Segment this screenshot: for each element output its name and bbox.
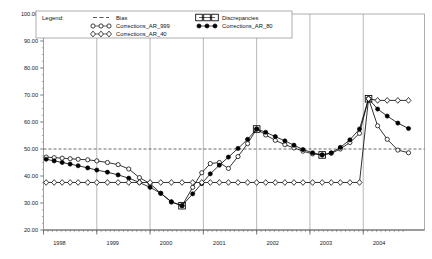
data-point-corrections_ar_40 — [245, 180, 250, 186]
data-point-corrections_ar_80 — [169, 200, 173, 204]
x-axis-tick-label: 1998 — [53, 240, 65, 246]
data-point-corrections_ar_40 — [105, 180, 110, 186]
y-axis-tick-label: 50.00 — [24, 146, 38, 152]
data-point-corrections_ar_40 — [116, 180, 121, 186]
data-point-corrections_ar_80 — [273, 134, 277, 138]
legend-label: Bias — [116, 15, 127, 21]
data-point-corrections_ar_80 — [236, 146, 240, 150]
data-point-corrections_ar_999 — [86, 158, 90, 162]
data-point-corrections_ar_999 — [127, 167, 131, 171]
data-point-corrections_ar_80 — [95, 168, 99, 172]
data-point-corrections_ar_80 — [180, 204, 184, 208]
data-point-corrections_ar_40 — [137, 180, 142, 186]
data-point-corrections_ar_999 — [200, 171, 204, 175]
data-point-corrections_ar_80 — [357, 127, 361, 131]
y-axis-tick-label: 30.00 — [24, 200, 38, 206]
data-point-corrections_ar_40 — [180, 180, 185, 186]
data-point-corrections_ar_999 — [76, 157, 80, 161]
data-point-corrections_ar_999 — [105, 160, 109, 164]
plot-frame — [44, 14, 425, 230]
data-point-corrections_ar_80 — [283, 139, 287, 143]
data-point-corrections_ar_80 — [320, 153, 324, 157]
data-point-corrections_ar_40 — [395, 98, 400, 104]
data-point-corrections_ar_40 — [85, 180, 90, 186]
data-point-corrections_ar_40 — [282, 180, 287, 186]
data-point-corrections_ar_80 — [406, 126, 410, 130]
data-point-corrections_ar_999 — [236, 154, 240, 158]
data-point-corrections_ar_40 — [320, 180, 325, 186]
x-axis-tick-label: 2002 — [266, 240, 278, 246]
legend-marker-filled-circle — [213, 24, 217, 28]
data-point-corrections_ar_80 — [86, 166, 90, 170]
data-point-corrections_ar_999 — [68, 157, 72, 161]
data-point-corrections_ar_80 — [191, 192, 195, 196]
legend-title: Legend: — [42, 15, 64, 21]
data-point-corrections_ar_999 — [396, 148, 400, 152]
y-axis-tick-label: 20.00 — [24, 227, 38, 233]
data-point-corrections_ar_40 — [300, 180, 305, 186]
x-axis-tick-label: 2000 — [160, 240, 172, 246]
data-point-corrections_ar_999 — [95, 159, 99, 163]
x-axis-tick-label: 2001 — [213, 240, 225, 246]
data-point-corrections_ar_40 — [226, 180, 231, 186]
y-axis-tick-label: 70.00 — [24, 92, 38, 98]
legend-marker-open-circle — [99, 24, 103, 28]
legend-marker-open-circle — [107, 24, 111, 28]
legend-label: Corrections_AR_40 — [116, 31, 167, 37]
data-point-corrections_ar_40 — [126, 180, 131, 186]
data-point-corrections_ar_80 — [208, 172, 212, 176]
data-point-corrections_ar_999 — [226, 166, 230, 170]
data-point-corrections_ar_40 — [357, 180, 362, 186]
data-point-corrections_ar_40 — [329, 180, 334, 186]
y-axis-tick-label: 90.00 — [24, 38, 38, 44]
chart-container: 100.0090.0080.0070.0060.0050.0040.0030.0… — [0, 0, 432, 259]
x-axis-tick-label: 2003 — [320, 240, 332, 246]
series-line-corrections_ar_80 — [46, 99, 408, 206]
data-point-corrections_ar_80 — [226, 155, 230, 159]
data-point-corrections_ar_80 — [310, 151, 314, 155]
data-point-corrections_ar_80 — [44, 157, 48, 161]
data-point-corrections_ar_999 — [208, 161, 212, 165]
y-axis-tick-label: 80.00 — [24, 65, 38, 71]
data-point-corrections_ar_40 — [76, 180, 81, 186]
data-point-corrections_ar_999 — [116, 163, 120, 167]
data-point-corrections_ar_40 — [273, 180, 278, 186]
data-point-corrections_ar_40 — [406, 98, 411, 104]
data-point-corrections_ar_80 — [76, 164, 80, 168]
data-point-corrections_ar_80 — [255, 127, 259, 131]
data-point-corrections_ar_80 — [116, 173, 120, 177]
data-point-corrections_ar_999 — [376, 124, 380, 128]
legend-label: Corrections_AR_80 — [222, 23, 273, 29]
data-point-corrections_ar_80 — [68, 162, 72, 166]
data-point-corrections_ar_40 — [169, 180, 174, 186]
data-point-corrections_ar_999 — [357, 131, 361, 135]
data-point-corrections_ar_80 — [105, 170, 109, 174]
data-point-corrections_ar_999 — [385, 137, 389, 141]
data-point-corrections_ar_40 — [385, 98, 390, 104]
data-point-corrections_ar_80 — [348, 138, 352, 142]
y-axis-tick-label: 40.00 — [24, 173, 38, 179]
data-point-corrections_ar_80 — [217, 163, 221, 167]
data-point-corrections_ar_80 — [264, 130, 268, 134]
data-point-corrections_ar_40 — [217, 180, 222, 186]
data-point-corrections_ar_80 — [376, 107, 380, 111]
data-point-corrections_ar_999 — [406, 151, 410, 155]
line-chart: 100.0090.0080.0070.0060.0050.0040.0030.0… — [0, 0, 432, 259]
y-axis-tick-label: 60.00 — [24, 119, 38, 125]
data-point-corrections_ar_40 — [208, 180, 213, 186]
data-point-corrections_ar_40 — [263, 180, 268, 186]
data-point-corrections_ar_40 — [347, 180, 352, 186]
data-point-corrections_ar_40 — [94, 180, 99, 186]
x-axis-tick-label: 2004 — [373, 240, 385, 246]
data-point-corrections_ar_40 — [338, 180, 343, 186]
data-point-corrections_ar_40 — [375, 98, 380, 104]
legend-label: Discrepancies — [222, 15, 259, 21]
legend-marker-filled-circle — [205, 24, 209, 28]
data-point-corrections_ar_40 — [310, 180, 315, 186]
data-point-corrections_ar_80 — [385, 114, 389, 118]
legend-label: Corrections_AR_999 — [116, 23, 170, 29]
series-line-corrections_ar_999 — [46, 99, 408, 206]
legend-marker-filled-circle — [197, 24, 201, 28]
data-point-corrections_ar_80 — [292, 143, 296, 147]
data-point-corrections_ar_999 — [60, 156, 64, 160]
